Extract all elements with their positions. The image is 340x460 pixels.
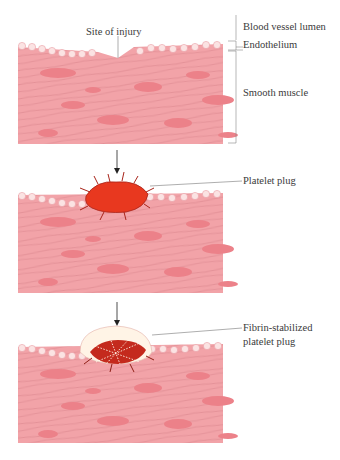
label-fibrin-line1: Fibrin-stabilized: [243, 322, 312, 334]
label-endothelium: Endothelium: [243, 39, 297, 51]
label-blood-vessel-lumen: Blood vessel lumen: [243, 21, 326, 33]
panel-platelet-plug: [18, 172, 242, 293]
hemostasis-diagram: [0, 0, 340, 460]
label-site-of-injury: Site of injury: [86, 26, 141, 38]
panel-fibrin-plug: [18, 326, 242, 443]
label-fibrin-line2: platelet plug: [243, 336, 295, 348]
label-smooth-muscle: Smooth muscle: [243, 87, 308, 99]
label-platelet-plug: Platelet plug: [243, 175, 296, 187]
